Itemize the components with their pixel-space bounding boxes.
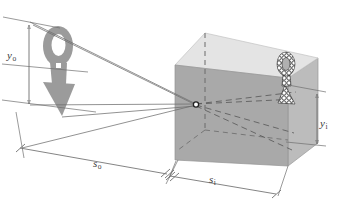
- label-image-height: yi: [320, 117, 327, 129]
- label-object-distance: so: [93, 157, 101, 169]
- ray-bottom-upper: [30, 104, 196, 105]
- yo-extension-top: [3, 17, 60, 28]
- so-tick-left: [16, 144, 25, 152]
- yo-extension-mid: [2, 64, 88, 72]
- ray-axis-construction: [22, 105, 196, 148]
- yo-extension-bottom: [2, 100, 96, 112]
- arrow-object: [43, 26, 75, 116]
- si-dimension-line: [170, 176, 276, 194]
- label-si-subscript: i: [214, 178, 216, 187]
- dimension-s-image: [166, 161, 288, 198]
- label-si-symbol: s: [209, 173, 213, 185]
- label-yo-subscript: o: [12, 54, 16, 63]
- label-image-distance: si: [209, 173, 215, 185]
- camera-box: [175, 33, 318, 166]
- figure-canvas: yo yi so si: [0, 0, 344, 220]
- pinhole-aperture: [193, 102, 198, 107]
- label-object-height: yo: [7, 49, 16, 61]
- pinhole-camera-diagram: [0, 0, 344, 220]
- dimension-s-object: [16, 112, 178, 184]
- box-front-face: [175, 65, 288, 166]
- label-so-subscript: o: [98, 162, 102, 171]
- label-so-symbol: s: [93, 157, 97, 169]
- si-tick-right: [272, 190, 281, 198]
